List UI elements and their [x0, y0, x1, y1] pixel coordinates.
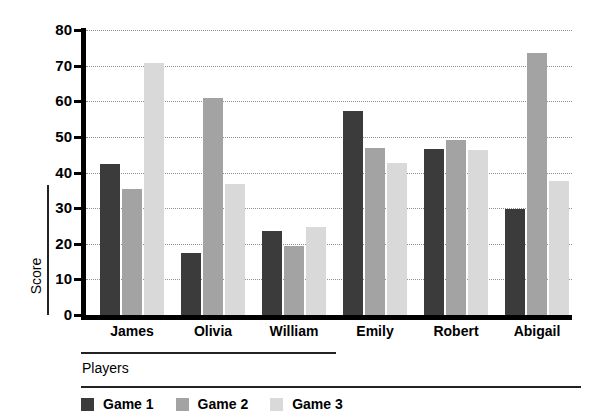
bar[interactable] — [365, 148, 385, 315]
bar[interactable] — [343, 111, 363, 315]
x-axis-title-rule — [81, 352, 336, 354]
y-axis-tick-label-wrap: 30 — [26, 208, 72, 209]
bar-chart: Score 01020304050607080 JamesOliviaWilli… — [0, 0, 604, 419]
y-axis-tick-label: 60 — [36, 93, 72, 108]
bar[interactable] — [262, 231, 282, 315]
legend-label: Game 1 — [103, 396, 154, 412]
y-axis-tick — [74, 65, 82, 68]
bar-group — [505, 30, 569, 315]
bar[interactable] — [284, 246, 304, 315]
y-axis-tick-label-wrap: 20 — [26, 244, 72, 245]
y-axis-tick-label-wrap: 40 — [26, 173, 72, 174]
bar-group — [100, 30, 164, 315]
bar[interactable] — [527, 53, 547, 315]
y-axis-tick-label-wrap: 50 — [26, 137, 72, 138]
bar[interactable] — [203, 98, 223, 315]
y-axis-tick — [74, 136, 82, 139]
y-axis-tick-label-wrap: 0 — [26, 315, 72, 316]
y-axis-tick — [74, 314, 82, 317]
x-axis-title: Players — [82, 360, 129, 376]
x-axis-category-label: Abigail — [482, 323, 592, 339]
legend-swatch — [270, 398, 283, 411]
bar[interactable] — [122, 189, 142, 315]
bar[interactable] — [505, 209, 525, 315]
legend-swatch — [176, 398, 189, 411]
y-axis-tick-label-wrap: 70 — [26, 66, 72, 67]
y-axis-tick-label: 80 — [36, 22, 72, 37]
y-axis-tick — [74, 278, 82, 281]
y-axis-tick-label-wrap: 60 — [26, 101, 72, 102]
legend: Game 1Game 2Game 3 — [81, 396, 343, 412]
bar-group — [343, 30, 407, 315]
y-axis-tick — [74, 100, 82, 103]
bar-group — [262, 30, 326, 315]
legend-item[interactable]: Game 1 — [81, 396, 154, 412]
y-axis-tick-label-wrap: 80 — [26, 30, 72, 31]
legend-swatch — [81, 398, 94, 411]
y-axis-tick-label: 50 — [36, 129, 72, 144]
bar[interactable] — [100, 164, 120, 315]
legend-rule — [81, 386, 581, 388]
bar[interactable] — [387, 163, 407, 315]
y-axis-tick-label: 20 — [36, 236, 72, 251]
plot-area — [86, 30, 572, 315]
y-axis-tick — [74, 207, 82, 210]
y-axis-tick — [74, 29, 82, 32]
x-axis-line — [81, 315, 572, 320]
legend-item[interactable]: Game 3 — [270, 396, 343, 412]
bar[interactable] — [468, 150, 488, 315]
y-axis-tick-label: 10 — [36, 271, 72, 286]
bar[interactable] — [549, 181, 569, 315]
y-axis-tick-label-wrap: 10 — [26, 279, 72, 280]
y-axis-tick — [74, 243, 82, 246]
y-axis-tick-label: 70 — [36, 58, 72, 73]
legend-item[interactable]: Game 2 — [176, 396, 249, 412]
bar[interactable] — [144, 63, 164, 315]
y-axis-tick-label: 40 — [36, 165, 72, 180]
bar-group — [181, 30, 245, 315]
y-axis-tick-label: 0 — [36, 307, 72, 322]
y-axis-tick — [74, 172, 82, 175]
bar[interactable] — [225, 184, 245, 315]
bar-group — [424, 30, 488, 315]
bar[interactable] — [446, 140, 466, 315]
bar[interactable] — [306, 227, 326, 315]
bar[interactable] — [424, 149, 444, 315]
bar[interactable] — [181, 253, 201, 315]
legend-label: Game 2 — [198, 396, 249, 412]
y-axis-tick-label: 30 — [36, 200, 72, 215]
legend-label: Game 3 — [292, 396, 343, 412]
